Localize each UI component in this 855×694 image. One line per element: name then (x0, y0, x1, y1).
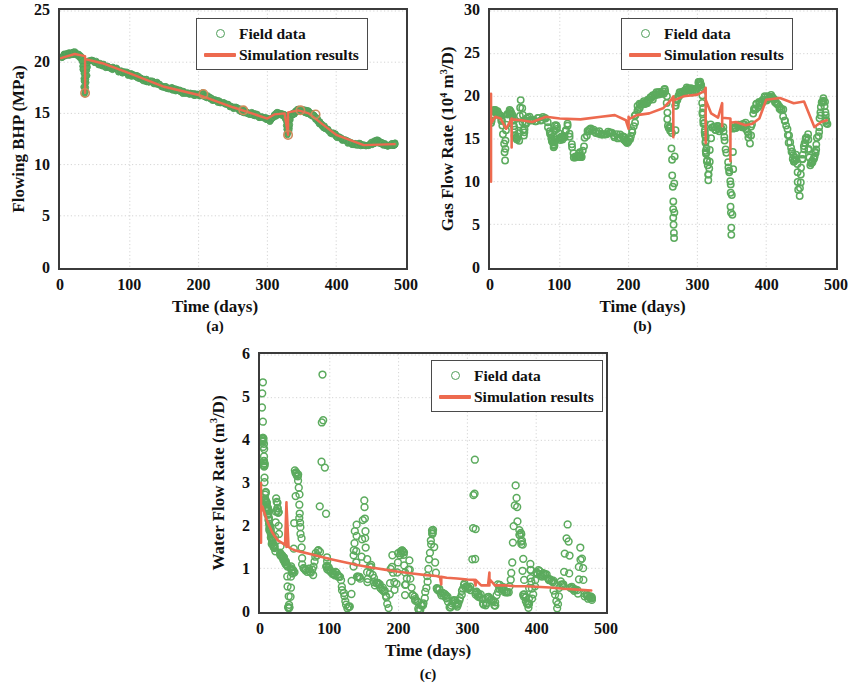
x-tick-400: 400 (755, 276, 779, 294)
y-tick-0: 0 (472, 259, 480, 277)
y-tick-1: 1 (242, 560, 250, 578)
x-tick-0: 0 (256, 620, 264, 638)
panel-a-y-tick-labels: 0510152025 (16, 8, 50, 270)
x-tick-200: 200 (386, 620, 410, 638)
x-tick-500: 500 (394, 276, 418, 294)
panel-c-legend: Field data Simulation results (431, 360, 603, 412)
y-tick-10: 10 (34, 156, 50, 174)
x-tick-300: 300 (456, 620, 480, 638)
y-tick-3: 3 (242, 474, 250, 492)
y-tick-15: 15 (464, 130, 480, 148)
y-tick-5: 5 (242, 388, 250, 406)
line-swatch-icon (628, 53, 662, 57)
y-tick-25: 25 (464, 44, 480, 62)
panel-c-y-tick-labels: 0123456 (216, 352, 250, 614)
panel-b-x-axis-title: Time (days) (430, 297, 855, 317)
x-tick-100: 100 (117, 276, 141, 294)
y-tick-2: 2 (242, 517, 250, 535)
panel-c-water-flow-rate: Water Flow Rate (m3/D) 0123456 010020030… (198, 340, 658, 694)
x-tick-0: 0 (486, 276, 494, 294)
legend-entry-field-data: Field data (628, 23, 784, 44)
legend-label-simulation-results: Simulation results (237, 46, 359, 64)
x-tick-400: 400 (525, 620, 549, 638)
legend-entry-simulation-results: Simulation results (628, 44, 784, 65)
legend-entry-simulation-results: Simulation results (438, 386, 594, 407)
open-circle-icon (203, 29, 237, 38)
panel-a-legend: Field data Simulation results (196, 18, 368, 70)
y-tick-6: 6 (242, 345, 250, 363)
panel-b-y-tick-labels: 051015202530 (446, 8, 480, 270)
x-tick-300: 300 (686, 276, 710, 294)
x-tick-0: 0 (56, 276, 64, 294)
legend-label-field-data: Field data (472, 367, 541, 385)
legend-entry-field-data: Field data (438, 365, 594, 386)
legend-label-simulation-results: Simulation results (472, 388, 594, 406)
line-swatch-icon (203, 53, 237, 57)
open-circle-icon (438, 371, 472, 380)
panel-a-flowing-bhp: Flowing BHP (MPa) 0510152025 01002003004… (0, 0, 430, 340)
y-tick-10: 10 (464, 173, 480, 191)
panel-b-legend: Field data Simulation results (621, 18, 793, 70)
y-tick-0: 0 (42, 259, 50, 277)
x-tick-400: 400 (325, 276, 349, 294)
x-tick-100: 100 (547, 276, 571, 294)
x-tick-100: 100 (317, 620, 341, 638)
y-tick-25: 25 (34, 1, 50, 19)
y-tick-4: 4 (242, 431, 250, 449)
x-tick-200: 200 (616, 276, 640, 294)
y-tick-5: 5 (472, 216, 480, 234)
line-swatch-icon (438, 395, 472, 399)
legend-entry-simulation-results: Simulation results (203, 44, 359, 65)
x-tick-500: 500 (594, 620, 618, 638)
scatter-points (490, 79, 831, 242)
legend-label-field-data: Field data (237, 25, 306, 43)
panel-a-caption: (a) (0, 318, 430, 335)
y-tick-5: 5 (42, 207, 50, 225)
y-tick-30: 30 (464, 1, 480, 19)
y-tick-15: 15 (34, 104, 50, 122)
legend-entry-field-data: Field data (203, 23, 359, 44)
x-tick-500: 500 (824, 276, 848, 294)
open-circle-icon (628, 29, 662, 38)
panel-c-caption: (c) (198, 666, 658, 683)
y-tick-20: 20 (34, 53, 50, 71)
panel-b-caption: (b) (430, 318, 855, 335)
y-tick-0: 0 (242, 603, 250, 621)
panel-b-gas-flow-rate: Gas Flow Rate (104 m3/D) 051015202530 01… (430, 0, 855, 340)
legend-label-simulation-results: Simulation results (662, 46, 784, 64)
y-tick-20: 20 (464, 87, 480, 105)
panel-a-x-axis-title: Time (days) (0, 297, 430, 317)
x-tick-200: 200 (186, 276, 210, 294)
panel-c-x-axis-title: Time (days) (198, 641, 658, 661)
legend-label-field-data: Field data (662, 25, 731, 43)
x-tick-300: 300 (256, 276, 280, 294)
